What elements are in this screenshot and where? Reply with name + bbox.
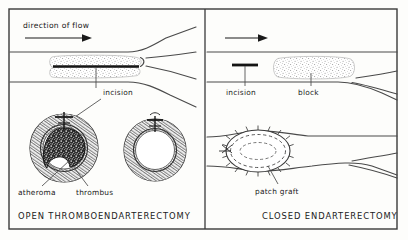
label-incision: incision [103,88,133,97]
panel-title-open: OPEN THROMBOENDARTERECTOMY [18,211,191,221]
figure-canvas: incision atherom [0,0,408,240]
panel-closed-endarterectomy: incision block [207,34,398,221]
label-direction-of-flow: direction of flow [23,21,89,30]
panel-title-closed: CLOSED ENDARTERECTOMY [262,211,398,221]
label-thrombus: thrombus [76,188,113,197]
short-incision-icon [232,65,258,86]
label-block: block [298,88,319,97]
panel-open-thromboendarterectomy: incision atherom [10,21,196,221]
label-atheroma: atheroma [18,188,56,197]
arrow-right-icon [25,34,92,42]
artery-cross-section-patent-icon [122,113,188,183]
label-incision-closed: incision [226,88,256,97]
label-patch-graft: patch graft [255,187,299,196]
stippled-plaque-icon-closed [274,56,355,79]
endarterectomy-figure: incision atherom [0,0,408,240]
artery-cross-section-occluded-icon [28,112,100,184]
arrow-right-icon-closed [225,34,268,42]
